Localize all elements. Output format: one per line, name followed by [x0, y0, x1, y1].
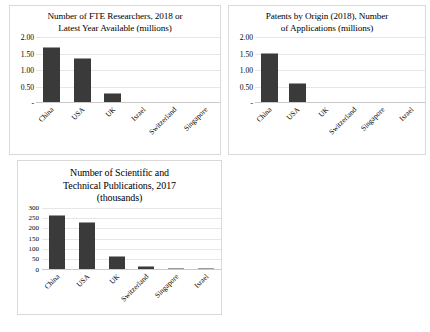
category-axis-researchers: ChinaUSAUKIsraelSwitzerlandSingapore	[36, 103, 220, 145]
category-label-text: USA	[285, 105, 302, 122]
y-axis-tick-label: 1.00	[21, 66, 34, 75]
chart-title-line: Number of Scientific and	[24, 167, 215, 180]
plot-wrap-patents: 2.001.501.000.50- ChinaUSAUKSwitzerlandS…	[229, 37, 425, 145]
category-label-text: UK	[316, 105, 330, 119]
category-label-text: USA	[70, 105, 87, 122]
category-label-text: UK	[103, 105, 117, 119]
chart-title-line: (thousands)	[24, 192, 215, 205]
category-axis-publications: ChinaUSAUKSwitzerlandSingaporeIsrael	[42, 270, 221, 312]
y-axis-tick-label: 1.50	[21, 49, 34, 58]
y-axis-patents: 2.001.501.000.50-	[229, 37, 255, 103]
y-axis-tick-label: 1.00	[240, 66, 253, 75]
category-slot: USA	[67, 103, 98, 145]
category-slot: Israel	[397, 103, 425, 145]
bar-slot	[312, 37, 340, 103]
y-axis-tick-label: -	[31, 99, 34, 108]
y-axis-tick-label: 0.50	[21, 82, 34, 91]
category-slot: China	[255, 103, 283, 145]
category-label-text: USA	[74, 272, 91, 289]
y-axis-tick-label: 2.00	[21, 33, 34, 42]
y-axis-tick-label: 100	[29, 245, 40, 253]
category-slot: Singapore	[161, 270, 191, 312]
category-slot: China	[36, 103, 67, 145]
y-axis-researchers: 2.001.501.000.50-	[10, 37, 36, 103]
category-slot: Singapore	[368, 103, 396, 145]
category-label-text: China	[37, 105, 56, 124]
chart-title-line: of Applications (millions)	[235, 23, 419, 35]
category-label-text: Israel	[192, 272, 210, 290]
bar-slot	[102, 208, 132, 270]
category-slot: USA	[72, 270, 102, 312]
bar-china	[43, 47, 60, 103]
y-axis-tick-label: 200	[29, 224, 40, 232]
category-slot: USA	[283, 103, 311, 145]
chart-title-patents: Patents by Origin (2018), Number of Appl…	[229, 6, 425, 34]
category-label-text: China	[42, 272, 61, 291]
chart-title-publications: Number of Scientific and Technical Publi…	[18, 161, 221, 205]
category-slot: UK	[97, 103, 128, 145]
y-axis-tick-label: 0.50	[240, 82, 253, 91]
chart-panel-researchers: Number of FTE Researchers, 2018 or Lates…	[9, 5, 221, 155]
category-label-text: Israel	[397, 105, 415, 123]
plot-wrap-publications: 300250200150100500 ChinaUSAUKSwitzerland…	[18, 208, 221, 312]
y-axis-tick-label: 1.50	[240, 49, 253, 58]
category-slot: Singapore	[189, 103, 220, 145]
chart-panel-patents: Patents by Origin (2018), Number of Appl…	[228, 5, 426, 155]
bar-usa	[79, 222, 95, 270]
plot-wrap-researchers: 2.001.501.000.50- ChinaUSAUKIsraelSwitze…	[10, 37, 220, 145]
category-axis-patents: ChinaUSAUKSwitzerlandSingaporeIsrael	[255, 103, 425, 145]
chart-title-line: Number of FTE Researchers, 2018 or	[16, 11, 214, 23]
y-axis-tick-label: 0	[36, 266, 40, 274]
category-slot: China	[42, 270, 72, 312]
category-label-text: UK	[107, 272, 121, 286]
chart-title-line: Technical Publications, 2017	[24, 180, 215, 193]
y-axis-tick-label: 150	[29, 235, 40, 243]
bar-china	[49, 215, 65, 270]
bar-slot	[67, 37, 98, 103]
bar-slot	[97, 37, 128, 103]
chart-panel-publications: Number of Scientific and Technical Publi…	[17, 160, 222, 315]
bar-slot	[283, 37, 311, 103]
chart-title-line: Patents by Origin (2018), Number	[235, 11, 419, 23]
y-axis-tick-label: 2.00	[240, 33, 253, 42]
category-label-text: Israel	[130, 105, 148, 123]
chart-title-researchers: Number of FTE Researchers, 2018 or Lates…	[10, 6, 220, 34]
category-label-text: China	[255, 105, 274, 124]
y-axis-tick-label: 250	[29, 214, 40, 222]
y-axis-tick-label: 50	[32, 255, 39, 263]
y-axis-tick-label: 300	[29, 204, 40, 212]
y-axis-tick-label: -	[250, 99, 253, 108]
bar-slot	[128, 37, 159, 103]
bar-slot	[72, 208, 102, 270]
y-axis-publications: 300250200150100500	[18, 208, 42, 270]
chart-title-line: Latest Year Available (millions)	[16, 23, 214, 35]
category-slot: Israel	[191, 270, 221, 312]
